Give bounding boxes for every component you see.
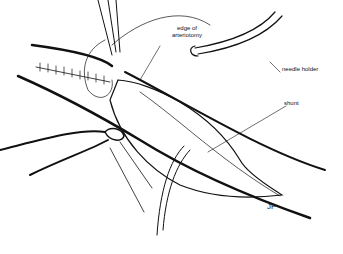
label-needle-holder: needle holder xyxy=(282,66,318,73)
label-line-1: edge of xyxy=(162,25,212,32)
label-shunt: shunt xyxy=(284,100,299,107)
artist-signature: JF xyxy=(267,203,276,210)
suture-line xyxy=(36,67,110,82)
label-edge-of-arteriotomy: edge of arteriotomy xyxy=(162,25,212,39)
label-line-2: arteriotomy xyxy=(162,32,212,39)
vessel-loop xyxy=(105,129,124,141)
artery-upper-edge xyxy=(32,45,112,66)
suture-loop xyxy=(84,40,112,97)
forceps xyxy=(98,0,120,55)
